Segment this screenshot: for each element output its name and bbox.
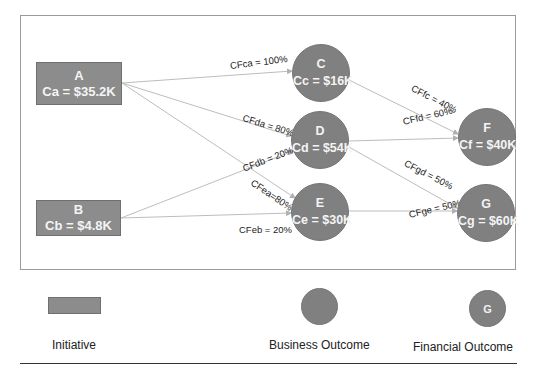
- node-name: G: [458, 196, 514, 213]
- node-name: E: [292, 195, 348, 212]
- legend-initiative-label: Initiative: [52, 338, 96, 352]
- legend-initiative-swatch: [48, 297, 101, 314]
- business-outcome-node-c[interactable]: C Cc = $16K: [292, 44, 350, 102]
- initiative-name: B: [37, 202, 120, 218]
- legend-business-outcome-label: Business Outcome: [269, 338, 370, 352]
- bottom-divider: [20, 363, 517, 364]
- initiative-cost: Cb = $4.8K: [37, 218, 120, 234]
- edge-a-e: [122, 83, 295, 198]
- node-cost: Cf = $40K: [459, 137, 515, 154]
- financial-outcome-node-g[interactable]: G Cg = $60K: [457, 184, 515, 242]
- legend-financial-outcome-label: Financial Outcome: [413, 340, 513, 354]
- node-name: D: [292, 123, 348, 140]
- initiative-name: A: [37, 68, 121, 84]
- business-outcome-node-d[interactable]: D Cd = $54K: [291, 111, 349, 169]
- node-name: F: [459, 120, 515, 137]
- node-cost: Cc = $16K: [293, 73, 349, 90]
- business-outcome-node-e[interactable]: E Ce = $30K: [291, 183, 349, 241]
- legend-financial-outcome-glyph: G: [483, 303, 492, 315]
- initiative-node-a[interactable]: A Ca = $35.2K: [36, 62, 122, 105]
- edge-a-c: [122, 71, 292, 83]
- edge-b-e: [121, 213, 291, 218]
- legend-business-outcome-swatch: [301, 288, 338, 325]
- edge-label-eb: CFeb = 20%: [239, 224, 292, 235]
- legend-financial-outcome-swatch: G: [469, 290, 506, 327]
- edge-d-f: [349, 138, 458, 141]
- initiative-cost: Ca = $35.2K: [37, 84, 121, 100]
- initiative-node-b[interactable]: B Cb = $4.8K: [36, 200, 121, 236]
- node-name: C: [293, 56, 349, 73]
- node-cost: Cd = $54K: [292, 140, 348, 157]
- financial-outcome-node-f[interactable]: F Cf = $40K: [458, 108, 516, 166]
- node-cost: Cg = $60K: [458, 213, 514, 230]
- node-cost: Ce = $30K: [292, 212, 348, 229]
